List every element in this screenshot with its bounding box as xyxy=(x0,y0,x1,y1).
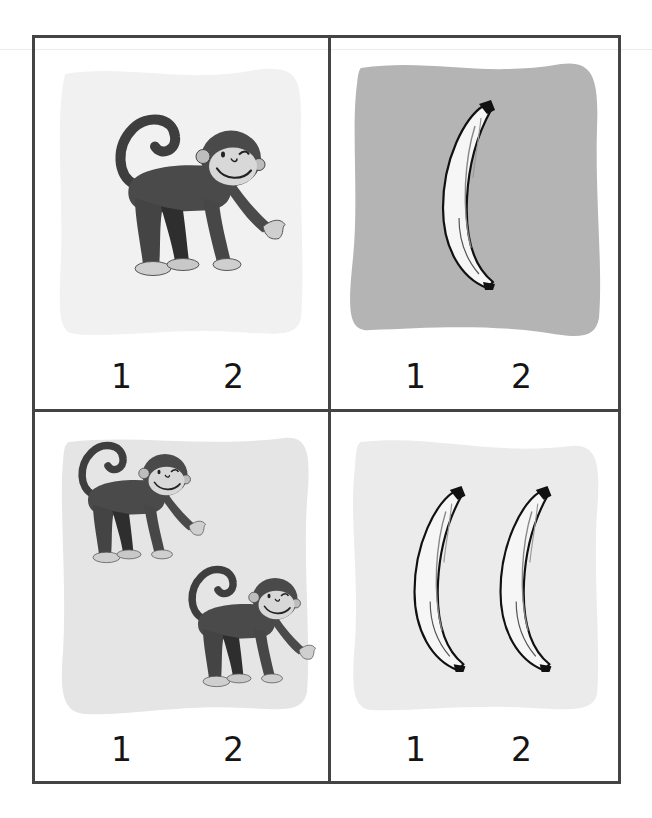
monkey-icon xyxy=(173,558,323,693)
option-2[interactable]: 2 xyxy=(223,733,244,766)
banana-icon xyxy=(433,98,503,294)
option-2[interactable]: 2 xyxy=(511,360,532,393)
banana-icon xyxy=(405,484,473,676)
card-two-monkeys: 1 2 xyxy=(35,412,328,781)
option-2[interactable]: 2 xyxy=(511,733,532,766)
monkey-icon xyxy=(95,104,295,284)
card-one-banana: 1 2 xyxy=(331,38,618,409)
option-1[interactable]: 1 xyxy=(405,733,426,766)
option-1[interactable]: 1 xyxy=(405,360,426,393)
option-2[interactable]: 2 xyxy=(223,360,244,393)
option-1[interactable]: 1 xyxy=(111,733,132,766)
monkey-icon xyxy=(63,434,213,569)
card-two-bananas: 1 2 xyxy=(331,412,618,781)
banana-icon xyxy=(491,484,559,676)
option-1[interactable]: 1 xyxy=(111,360,132,393)
worksheet-grid: 1 2 1 2 1 2 xyxy=(32,35,621,784)
card-background-blob xyxy=(331,412,618,781)
card-one-monkey: 1 2 xyxy=(35,38,328,409)
